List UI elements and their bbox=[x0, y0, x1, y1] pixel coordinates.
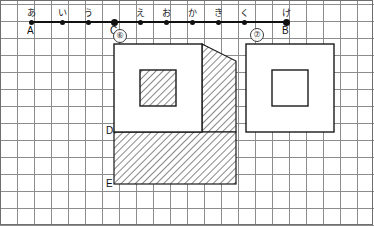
number-line-kana-label: う bbox=[84, 9, 93, 18]
figure-6-badge: ⑥ bbox=[113, 29, 127, 43]
figure-7-badge: ⑦ bbox=[250, 28, 264, 42]
number-line-kana-label: く bbox=[240, 9, 249, 18]
geometry-figures bbox=[0, 0, 374, 226]
number-line-dot-2[interactable] bbox=[86, 20, 91, 25]
number-line-kana-label: あ bbox=[27, 9, 36, 18]
worksheet-canvas: あAいうCえおかきくけB ⑥ ⑦ D E bbox=[0, 0, 374, 226]
right-inner-square bbox=[272, 70, 308, 106]
number-line-axis bbox=[31, 21, 286, 23]
number-line-kana-label: か bbox=[188, 9, 197, 18]
number-line-dot-6[interactable] bbox=[190, 20, 195, 25]
number-line-kana-label: け bbox=[282, 9, 291, 18]
number-line-kana-label: い bbox=[58, 9, 67, 18]
point-label-E: E bbox=[106, 179, 113, 189]
point-label-D: D bbox=[106, 126, 113, 136]
number-line-dot-7[interactable] bbox=[216, 20, 221, 25]
number-line-dot-4[interactable] bbox=[138, 20, 143, 25]
hatched-trapezoid bbox=[202, 44, 236, 132]
number-line-point-A: A bbox=[27, 26, 34, 36]
number-line-dot-1[interactable] bbox=[60, 20, 65, 25]
figure-6-group bbox=[114, 44, 236, 184]
number-line-dot-5[interactable] bbox=[164, 20, 169, 25]
left-inner-hatched-square bbox=[140, 70, 176, 106]
number-line-dot-0[interactable] bbox=[29, 20, 34, 25]
number-line-dot-8[interactable] bbox=[242, 20, 247, 25]
number-line-kana-label: き bbox=[214, 9, 223, 18]
figure-7-group bbox=[246, 44, 334, 132]
hatched-lower-rect bbox=[114, 132, 236, 184]
number-line-point-B: B bbox=[282, 26, 289, 36]
number-line-kana-label: お bbox=[162, 9, 171, 18]
number-line-kana-label: え bbox=[136, 9, 145, 18]
